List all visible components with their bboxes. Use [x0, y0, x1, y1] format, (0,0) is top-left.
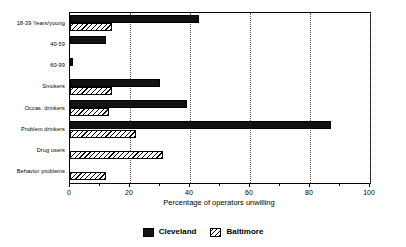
x-major-tick-0	[69, 183, 70, 187]
bar-cleveland-0	[70, 15, 199, 23]
gridline-100	[370, 13, 371, 183]
x-axis-title: Percentage of operators unwilling	[69, 198, 369, 208]
plot-inner	[70, 13, 370, 183]
y-axis-label-6: Drug users	[0, 147, 65, 153]
x-tick-label-0: 0	[54, 188, 84, 197]
x-minor-tick-90	[339, 183, 340, 186]
bar-baltimore-7	[70, 172, 106, 180]
x-major-tick-40	[189, 183, 190, 187]
x-minor-tick-30	[159, 183, 160, 186]
bar-cleveland-1	[70, 36, 106, 44]
x-tick-label-40: 40	[174, 188, 204, 197]
x-tick-label-20: 20	[114, 188, 144, 197]
bar-group-5	[70, 119, 370, 140]
x-minor-tick-70	[279, 183, 280, 186]
x-minor-tick-10	[99, 183, 100, 186]
legend-label-baltimore: Baltimore	[226, 227, 263, 237]
y-axis-label-4: Occas. drinkers	[0, 105, 65, 111]
bar-group-6	[70, 141, 370, 162]
bar-group-0	[70, 13, 370, 34]
bar-cleveland-4	[70, 100, 187, 108]
x-major-tick-20	[129, 183, 130, 187]
y-axis-label-7: Behavior problems	[0, 168, 65, 174]
bar-baltimore-4	[70, 108, 109, 116]
x-tick-label-60: 60	[234, 188, 264, 197]
legend-swatch-cleveland-icon	[143, 228, 154, 237]
plot-area	[69, 12, 371, 184]
bar-cleveland-3	[70, 79, 160, 87]
bar-group-4	[70, 98, 370, 119]
y-axis-label-5: Problem drinkers	[0, 126, 65, 132]
x-major-tick-60	[249, 183, 250, 187]
bar-cleveland-5	[70, 121, 331, 129]
legend-swatch-baltimore-icon	[210, 228, 221, 237]
bar-group-7	[70, 162, 370, 183]
bar-group-3	[70, 77, 370, 98]
x-tick-label-100: 100	[354, 188, 384, 197]
y-axis-label-2: 60-99	[0, 62, 65, 68]
legend-label-cleveland: Cleveland	[159, 227, 197, 237]
bar-group-1	[70, 34, 370, 55]
y-axis-category-labels: 18-39 Years/young 40-59 60-99 Smokers Oc…	[0, 14, 65, 180]
y-axis-label-0: 18-39 Years/young	[0, 20, 65, 26]
bar-group-2	[70, 56, 370, 77]
bar-baltimore-3	[70, 87, 112, 95]
x-major-tick-100	[369, 183, 370, 187]
x-minor-tick-50	[219, 183, 220, 186]
bar-baltimore-6	[70, 151, 163, 159]
bar-baltimore-0	[70, 23, 112, 31]
bar-cleveland-2	[70, 58, 73, 66]
x-tick-label-80: 80	[294, 188, 324, 197]
legend-item-baltimore: Baltimore	[210, 227, 263, 237]
bar-baltimore-5	[70, 130, 136, 138]
chart-legend: Cleveland Baltimore	[0, 222, 406, 242]
y-axis-label-3: Smokers	[0, 83, 65, 89]
bar-chart-figure: 18-39 Years/young 40-59 60-99 Smokers Oc…	[0, 0, 406, 247]
y-axis-label-1: 40-59	[0, 41, 65, 47]
x-major-tick-80	[309, 183, 310, 187]
legend-item-cleveland: Cleveland	[143, 227, 197, 237]
